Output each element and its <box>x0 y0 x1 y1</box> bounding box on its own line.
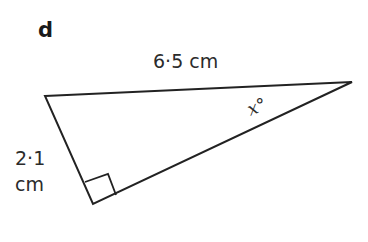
part-label: d <box>38 18 53 42</box>
triangle-diagram <box>0 0 368 242</box>
short-side-unit: cm <box>15 171 45 197</box>
hypotenuse-label: 6·5 cm <box>153 50 218 72</box>
right-triangle <box>45 82 352 204</box>
right-angle-marker <box>85 174 116 195</box>
short-side-value: 2·1 <box>15 145 45 171</box>
short-side-label: 2·1 cm <box>15 145 45 197</box>
